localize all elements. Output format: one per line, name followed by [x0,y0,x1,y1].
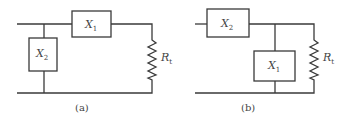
load-resistor-label-b: Rt [322,51,334,66]
wire-top-right-b [249,24,314,37]
wire-bottom-b [195,82,314,93]
wire-bottom-a [17,82,152,93]
resistor-icon [310,37,318,82]
wire-top-right-a [111,24,152,37]
circuit-a: X1 X2 Rt (a) [17,11,172,113]
caption-b: (b) [241,102,255,113]
circuit-b: X2 X1 Rt (b) [195,9,334,113]
load-resistor-label-a: Rt [160,51,172,66]
circuit-diagrams: X1 X2 Rt (a) X2 X1 Rt (b) [0,0,350,118]
resistor-icon [148,37,156,82]
caption-a: (a) [75,102,89,113]
